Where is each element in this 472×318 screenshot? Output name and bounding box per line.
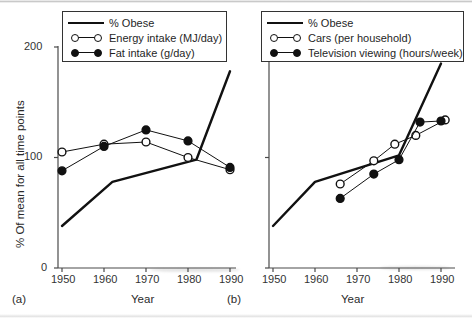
panel-b-caption: (b) — [227, 294, 241, 306]
x-tick-label-1970: 1970 — [135, 274, 159, 285]
legend-key-thick-line — [63, 15, 109, 30]
figure-container: % Obese Energy intake (MJ/day) Fat intak… — [0, 0, 472, 318]
x-tick-label-1980: 1980 — [177, 274, 201, 285]
legend-item-energy-intake: Energy intake (MJ/day) — [63, 30, 226, 45]
legend-key-closed-circle-line — [262, 45, 308, 60]
legend-panel-a: % Obese Energy intake (MJ/day) Fat intak… — [62, 11, 227, 62]
legend-label-obese: % Obese — [109, 17, 154, 29]
x-tick-label-1970: 1970 — [346, 274, 370, 285]
legend-label-fat-intake: Fat intake (g/day) — [109, 47, 195, 59]
legend-label-cars: Cars (per household) — [308, 32, 411, 44]
legend-key-open-circle-line — [63, 30, 109, 45]
x-axis-title-a: Year — [131, 294, 154, 306]
x-tick-label-1990: 1990 — [430, 274, 454, 285]
legend-key-open-circle-line — [262, 30, 308, 45]
legend-item-television-viewing: Television viewing (hours/week) — [262, 45, 463, 60]
legend-label-obese: % Obese — [308, 17, 353, 29]
x-tick-label-1950: 1950 — [262, 274, 286, 285]
legend-item-fat-intake: Fat intake (g/day) — [63, 45, 226, 60]
legend-label-energy-intake: Energy intake (MJ/day) — [109, 32, 222, 44]
x-tick-label-1980: 1980 — [388, 274, 412, 285]
x-axis-title-b: Year — [341, 294, 364, 306]
x-tick-label-1960: 1960 — [93, 274, 117, 285]
legend-item-cars: Cars (per household) — [262, 30, 463, 45]
panel-a: % Obese Energy intake (MJ/day) Fat intak… — [0, 0, 236, 318]
y-tick-label-0: 0 — [41, 262, 47, 273]
y-tick-label-200: 200 — [24, 41, 42, 52]
panel-a-caption: (a) — [12, 294, 26, 306]
legend-item-obese: % Obese — [262, 15, 463, 30]
legend-key-closed-circle-line — [63, 45, 109, 60]
legend-key-thick-line — [262, 15, 308, 30]
x-tick-label-1960: 1960 — [304, 274, 328, 285]
panel-b: % Obese Cars (per household) Television … — [236, 0, 472, 318]
legend-label-television-viewing: Television viewing (hours/week) — [308, 47, 463, 59]
y-axis-title: % Of mean for all time points — [14, 100, 26, 248]
y-tick-label-100: 100 — [24, 151, 42, 162]
x-tick-label-1950: 1950 — [51, 274, 75, 285]
legend-panel-b: % Obese Cars (per household) Television … — [261, 11, 464, 62]
legend-item-obese: % Obese — [63, 15, 226, 30]
